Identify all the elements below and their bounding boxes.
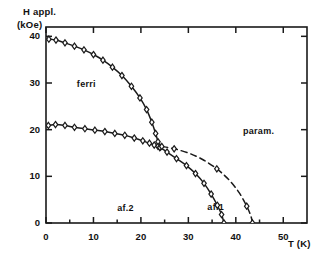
data-point-marker — [53, 121, 57, 127]
data-point-marker — [153, 130, 157, 136]
data-point-marker — [63, 40, 67, 46]
data-point-marker — [72, 124, 76, 130]
data-point-marker — [83, 126, 87, 132]
data-point-marker — [82, 47, 86, 53]
y-tick-label: 40 — [14, 30, 40, 41]
y-axis-title-line2: (kOe) — [17, 19, 42, 30]
data-point-marker — [63, 122, 67, 128]
region-label-param: param. — [243, 126, 274, 136]
data-point-marker — [250, 220, 254, 226]
data-point-marker — [174, 156, 178, 162]
y-tick-label: 30 — [14, 77, 40, 88]
data-point-marker — [72, 43, 76, 49]
x-tick-label: 40 — [227, 231, 245, 242]
x-tick-label: 50 — [274, 231, 292, 242]
data-point-marker — [103, 128, 107, 134]
data-point-marker — [54, 37, 58, 43]
data-point-marker — [113, 130, 117, 136]
x-tick-label: 20 — [132, 231, 150, 242]
plot-canvas — [0, 0, 332, 259]
data-point-marker — [46, 122, 50, 128]
data-point-marker — [147, 140, 151, 146]
region-label-af2: af.2 — [117, 203, 134, 213]
data-point-marker — [132, 135, 136, 141]
data-point-marker — [165, 149, 169, 155]
data-point-marker — [101, 57, 105, 63]
data-point-marker — [222, 220, 226, 226]
data-point-marker — [172, 146, 176, 152]
y-tick-label: 10 — [14, 170, 40, 181]
y-tick-label: 20 — [14, 124, 40, 135]
data-markers — [46, 36, 255, 226]
x-tick-label: 10 — [84, 231, 102, 242]
data-point-marker — [141, 138, 145, 144]
data-point-marker — [123, 132, 127, 138]
region-label-af1: af.1 — [207, 202, 224, 212]
x-tick-label: 0 — [37, 231, 55, 242]
data-point-marker — [91, 51, 95, 57]
data-curves — [48, 39, 252, 223]
x-tick-label: 30 — [179, 231, 197, 242]
data-point-marker — [93, 127, 97, 133]
phase-diagram-figure: H appl. (kOe) T (K) 01020304050010203040… — [0, 0, 332, 259]
y-axis-title-line1: H appl. — [23, 6, 56, 17]
y-tick-label: 0 — [14, 217, 40, 228]
region-label-ferri: ferri — [77, 79, 96, 89]
